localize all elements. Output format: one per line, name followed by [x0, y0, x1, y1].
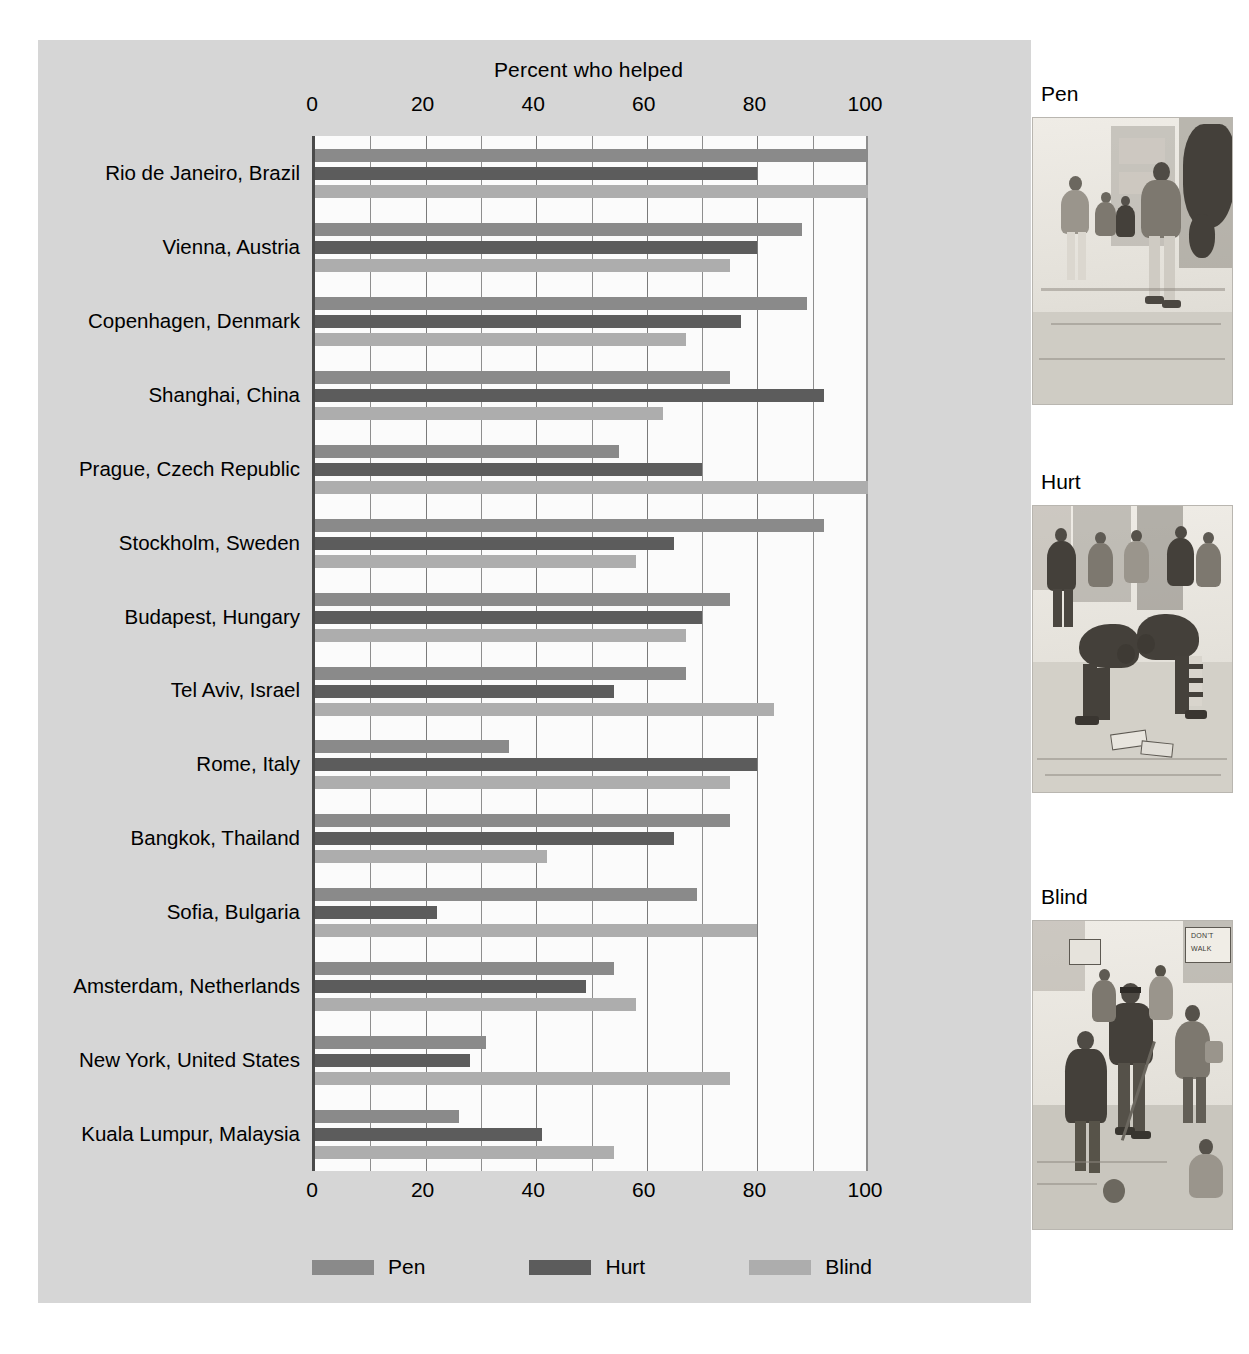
- bar-group: [315, 580, 868, 654]
- bar-pen: [315, 1036, 486, 1049]
- bar-group: [315, 654, 868, 728]
- blind-illustration-block: Blind DON'T WALK: [1032, 885, 1249, 1230]
- legend-label: Hurt: [605, 1255, 645, 1279]
- bar-group: [315, 506, 868, 580]
- bar-pen: [315, 297, 807, 310]
- chart-title: Percent who helped: [312, 58, 865, 82]
- category-label: New York, United States: [0, 1048, 300, 1072]
- x-tick-label: 100: [847, 1178, 882, 1202]
- bar-blind: [315, 850, 547, 863]
- bar-hurt: [315, 1128, 542, 1141]
- bar-pen: [315, 888, 697, 901]
- bar-blind: [315, 333, 686, 346]
- hurt-illustration: [1032, 505, 1233, 793]
- bar-hurt: [315, 906, 437, 919]
- legend-label: Blind: [825, 1255, 872, 1279]
- pen-illustration: [1032, 117, 1233, 405]
- category-label: Tel Aviv, Israel: [0, 678, 300, 702]
- bar-hurt: [315, 463, 702, 476]
- category-label: Prague, Czech Republic: [0, 457, 300, 481]
- bar-pen: [315, 371, 730, 384]
- x-tick-label: 80: [743, 1178, 766, 1202]
- bar-hurt: [315, 832, 674, 845]
- x-tick-label: 60: [632, 1178, 655, 1202]
- bar-hurt: [315, 315, 741, 328]
- x-tick-label: 60: [632, 92, 655, 116]
- bar-group: [315, 1097, 868, 1171]
- category-axis-labels: Rio de Janeiro, BrazilVienna, AustriaCop…: [0, 136, 300, 1171]
- chart-legend: PenHurtBlind: [312, 1252, 872, 1282]
- bar-hurt: [315, 611, 702, 624]
- bar-blind: [315, 1072, 730, 1085]
- legend-item-blind[interactable]: Blind: [749, 1255, 872, 1279]
- category-label: Rome, Italy: [0, 752, 300, 776]
- legend-item-pen[interactable]: Pen: [312, 1255, 425, 1279]
- bar-group: [315, 1023, 868, 1097]
- bar-hurt: [315, 685, 614, 698]
- bar-hurt: [315, 980, 586, 993]
- bar-hurt: [315, 167, 757, 180]
- bar-group: [315, 136, 868, 210]
- bar-blind: [315, 776, 730, 789]
- hurt-illustration-block: Hurt: [1032, 470, 1249, 793]
- x-tick-label: 40: [522, 1178, 545, 1202]
- hurt-illustration-caption: Hurt: [1041, 470, 1249, 494]
- plot-area: [312, 136, 868, 1171]
- legend-item-hurt[interactable]: Hurt: [529, 1255, 645, 1279]
- x-tick-label: 0: [306, 1178, 318, 1202]
- bar-blind: [315, 555, 636, 568]
- x-axis-ticks-top: 020406080100: [312, 92, 865, 118]
- x-tick-label: 80: [743, 92, 766, 116]
- x-axis-ticks-bottom: 020406080100: [312, 1178, 865, 1204]
- bar-hurt: [315, 1054, 470, 1067]
- category-label: Kuala Lumpur, Malaysia: [0, 1122, 300, 1146]
- bar-blind: [315, 259, 730, 272]
- bar-blind: [315, 998, 636, 1011]
- x-tick-label: 100: [847, 92, 882, 116]
- bar-group: [315, 949, 868, 1023]
- pen-illustration-caption: Pen: [1041, 82, 1249, 106]
- bar-group: [315, 875, 868, 949]
- bar-pen: [315, 519, 824, 532]
- bar-blind: [315, 1146, 614, 1159]
- x-tick-label: 40: [522, 92, 545, 116]
- bar-hurt: [315, 537, 674, 550]
- dont-walk-sign: DON'T WALK: [1185, 927, 1231, 963]
- x-tick-label: 20: [411, 92, 434, 116]
- bar-pen: [315, 740, 509, 753]
- bar-pen: [315, 445, 619, 458]
- bar-pen: [315, 223, 802, 236]
- illustration-column: Pen: [1032, 40, 1249, 1303]
- legend-label: Pen: [388, 1255, 425, 1279]
- dont-walk-sign-line1: DON'T: [1191, 932, 1214, 939]
- legend-swatch-icon: [312, 1260, 374, 1275]
- category-label: Amsterdam, Netherlands: [0, 974, 300, 998]
- category-label: Rio de Janeiro, Brazil: [0, 161, 300, 185]
- bar-hurt: [315, 389, 824, 402]
- x-tick-label: 0: [306, 92, 318, 116]
- bar-pen: [315, 814, 730, 827]
- bar-group: [315, 727, 868, 801]
- category-label: Copenhagen, Denmark: [0, 309, 300, 333]
- bar-blind: [315, 703, 774, 716]
- category-label: Stockholm, Sweden: [0, 531, 300, 555]
- pen-illustration-block: Pen: [1032, 82, 1249, 405]
- bar-blind: [315, 185, 868, 198]
- category-label: Sofia, Bulgaria: [0, 900, 300, 924]
- legend-swatch-icon: [529, 1260, 591, 1275]
- bar-group: [315, 432, 868, 506]
- bar-blind: [315, 481, 868, 494]
- bar-hurt: [315, 241, 757, 254]
- bar-pen: [315, 962, 614, 975]
- category-label: Vienna, Austria: [0, 235, 300, 259]
- blind-illustration: DON'T WALK: [1032, 920, 1233, 1230]
- bar-group: [315, 358, 868, 432]
- legend-swatch-icon: [749, 1260, 811, 1275]
- bar-group: [315, 284, 868, 358]
- bar-group: [315, 801, 868, 875]
- blind-illustration-caption: Blind: [1041, 885, 1249, 909]
- bar-pen: [315, 593, 730, 606]
- category-label: Shanghai, China: [0, 383, 300, 407]
- bar-blind: [315, 924, 757, 937]
- bar-hurt: [315, 758, 757, 771]
